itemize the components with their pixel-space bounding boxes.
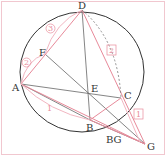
label-E: E xyxy=(91,83,98,94)
geometry-diagram: D F A E C B G BG 3 2 2 1 1 xyxy=(0,0,168,158)
label-A: A xyxy=(11,82,20,93)
label-G: G xyxy=(147,141,155,152)
segment-label-2-right: 2 xyxy=(109,46,114,55)
label-F: F xyxy=(39,47,46,58)
segment-label-1-bottom: 1 xyxy=(47,104,52,113)
label-C: C xyxy=(124,90,132,101)
segment-label-3: 3 xyxy=(48,24,53,33)
segment-label-1-right: 1 xyxy=(136,110,141,119)
label-D: D xyxy=(78,0,86,11)
diagram-canvas: D F A E C B G BG 3 2 2 1 1 xyxy=(0,0,168,158)
arc-marks xyxy=(21,10,140,142)
segment-label-2-left: 2 xyxy=(24,58,29,67)
label-BG: BG xyxy=(106,134,122,145)
label-B: B xyxy=(86,122,93,133)
